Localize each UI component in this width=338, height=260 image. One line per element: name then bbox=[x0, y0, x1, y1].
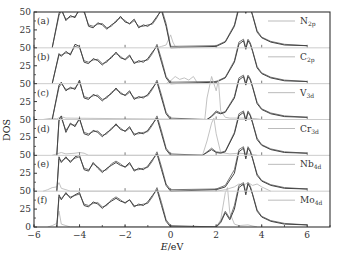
x-tick-label: 2 bbox=[213, 230, 219, 240]
series-V3d-partial bbox=[43, 77, 262, 120]
y-tick-label: 25 bbox=[20, 132, 32, 142]
y-tick-label: 25 bbox=[20, 61, 32, 71]
panels-group bbox=[43, 3, 307, 227]
y-tick-label: 25 bbox=[20, 204, 32, 214]
y-tick-label: 25 bbox=[20, 25, 32, 35]
x-tick-label: 6 bbox=[304, 230, 310, 240]
panel-label: (d) bbox=[37, 124, 50, 134]
panel-label: (a) bbox=[37, 16, 49, 26]
y-tick-label: 50 bbox=[20, 115, 32, 125]
panel-a bbox=[52, 3, 307, 47]
x-axis-label: E/eV bbox=[160, 241, 184, 252]
y-tick-label: 25 bbox=[20, 97, 32, 107]
y-tick-label: 50 bbox=[20, 43, 32, 53]
y-tick-label: 50 bbox=[20, 186, 32, 196]
panel-d bbox=[52, 111, 307, 155]
y-tick-label: 25 bbox=[20, 168, 32, 178]
series-total-1 bbox=[52, 5, 307, 48]
legend-label: Nb4d bbox=[300, 159, 321, 170]
y-tick-label: 50 bbox=[20, 7, 32, 17]
legend-label: N2p bbox=[300, 16, 316, 28]
x-tick-label: 0 bbox=[168, 230, 174, 240]
legend-label: Mo4d bbox=[300, 195, 322, 206]
panel-label: (e) bbox=[37, 159, 49, 169]
x-tick-label: 4 bbox=[259, 230, 265, 240]
axes-group: (a)N2p2550(b)C2p2550(c)V3d2550(d)Cr3d255… bbox=[20, 7, 330, 240]
panel-label: (b) bbox=[37, 52, 50, 62]
y-axis-label: DOS bbox=[1, 119, 12, 141]
y-tick-label: 50 bbox=[20, 79, 32, 89]
series-Mo4d-partial bbox=[48, 188, 257, 227]
y-tick-label: 50 bbox=[20, 150, 32, 160]
legend-label: Cr3d bbox=[300, 124, 319, 135]
dos-chart: (a)N2p2550(b)C2p2550(c)V3d2550(d)Cr3d255… bbox=[0, 0, 338, 260]
x-tick-label: −6 bbox=[27, 230, 41, 240]
legend-label: V3d bbox=[299, 88, 314, 99]
legend-label: C2p bbox=[300, 52, 315, 64]
x-tick-label: −4 bbox=[73, 230, 87, 240]
x-tick-label: −2 bbox=[118, 230, 131, 240]
panel-label: (f) bbox=[37, 195, 47, 205]
panel-label: (c) bbox=[37, 88, 49, 98]
